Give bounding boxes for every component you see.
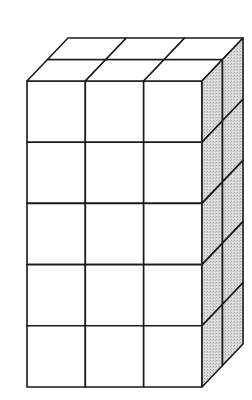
front-cube-face [27,265,85,326]
front-cube-face [85,81,143,142]
front-cube-face [144,326,202,387]
front-cube-face [144,81,202,142]
front-cube-face [27,326,85,387]
right-side-face [202,38,243,387]
cube-prism-diagram [0,0,252,400]
rectangular-prism-figure [0,0,252,400]
front-cube-face [85,265,143,326]
front-cube-face [85,142,143,203]
front-cube-face [27,81,85,142]
front-cube-face [144,142,202,203]
front-cube-face [144,265,202,326]
front-cube-face [27,203,85,264]
front-cube-face [85,203,143,264]
front-cube-face [85,326,143,387]
front-face [27,81,202,387]
front-cube-face [27,142,85,203]
front-cube-face [144,203,202,264]
